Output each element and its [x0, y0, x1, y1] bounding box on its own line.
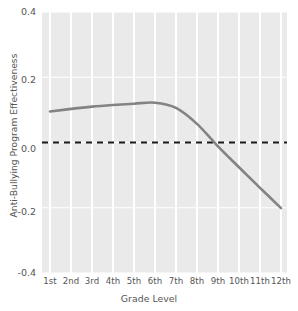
x-tick-label: 11th [250, 277, 270, 286]
x-tick-label: 1st [43, 277, 56, 286]
x-tick-label: 3rd [85, 277, 99, 286]
x-tick-label: 6th [148, 277, 162, 286]
x-tick-label: 8th [190, 277, 204, 286]
x-axis-title: Grade Level [0, 293, 298, 304]
y-axis-title: Anti-Bullying Program Effectiveness [8, 11, 19, 261]
x-tick-label: 7th [169, 277, 183, 286]
x-tick-label: 10th [229, 277, 249, 286]
x-tick-label: 9th [211, 277, 225, 286]
y-axis-ticks: 0.4 0.2 0.0 -0.2 -0.4 [0, 0, 298, 311]
y-tick-label: -0.4 [2, 268, 36, 278]
chart-figure: 0.4 0.2 0.0 -0.2 -0.4 1st 2nd 3rd 4th 5t… [0, 0, 298, 311]
x-tick-label: 12th [271, 277, 291, 286]
x-tick-label: 4th [106, 277, 120, 286]
x-tick-label: 5th [127, 277, 141, 286]
x-tick-label: 2nd [63, 277, 79, 286]
